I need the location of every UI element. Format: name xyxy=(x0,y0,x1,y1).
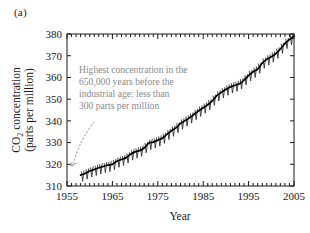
seasonal-spike xyxy=(227,84,230,95)
y-tick-label: 380 xyxy=(46,28,63,40)
seasonal-spike xyxy=(131,149,134,160)
seasonal-spike xyxy=(231,82,234,93)
figure-panel: (a) 310320330340350360370380 19551965197… xyxy=(0,0,310,233)
x-tick-label: 1965 xyxy=(101,190,124,202)
seasonal-spike xyxy=(236,81,239,92)
y-axis-tick-labels: 310320330340350360370380 xyxy=(46,28,63,192)
x-tick-label: 1985 xyxy=(192,190,215,202)
y-tick-label: 330 xyxy=(46,136,63,148)
y-axis-title-units: (parts per million) xyxy=(23,68,36,152)
seasonal-spike xyxy=(268,54,271,65)
seasonal-spike xyxy=(159,135,162,146)
annotation-line: industrial age: less than xyxy=(79,88,170,99)
seasonal-spike xyxy=(104,162,107,173)
seasonal-spike xyxy=(154,137,157,148)
y-axis-title: CO2 concentration (parts per million) xyxy=(10,67,36,153)
x-axis-title: Year xyxy=(169,210,190,222)
seasonal-spike xyxy=(86,168,89,179)
seasonal-spike xyxy=(122,155,125,166)
y-tick-label: 360 xyxy=(46,71,63,83)
annotation-line: 650,000 years before the xyxy=(79,76,174,87)
x-tick-label: 1975 xyxy=(147,190,170,202)
annotation-leader-arrow xyxy=(74,122,95,163)
y-axis-title-co: CO xyxy=(10,137,22,153)
seasonal-spike xyxy=(81,170,84,181)
x-tick-label: 1955 xyxy=(56,190,79,202)
x-tick-label: 1995 xyxy=(238,190,261,202)
annotation-line: Highest concentration in the xyxy=(79,64,187,75)
y-axis-title-rest: concentration xyxy=(10,67,22,133)
co2-concentration-chart: 310320330340350360370380 195519651975198… xyxy=(0,0,310,233)
annotation-line: 300 parts per million xyxy=(79,100,159,111)
seasonal-spike xyxy=(254,67,257,78)
seasonal-spike xyxy=(91,166,94,177)
seasonal-spike xyxy=(109,161,112,172)
seasonal-spike xyxy=(136,147,139,158)
x-tick-label: 2005 xyxy=(283,190,306,202)
y-tick-label: 320 xyxy=(46,158,63,170)
seasonal-spike xyxy=(118,157,121,168)
seasonal-spike xyxy=(150,139,153,150)
y-tick-label: 370 xyxy=(46,50,63,62)
y-tick-label: 340 xyxy=(46,115,63,127)
seasonal-spike xyxy=(100,163,103,174)
x-axis-tick-labels: 195519651975198519952005 xyxy=(56,190,306,202)
y-tick-label: 350 xyxy=(46,93,63,105)
pre-industrial-annotation: Highest concentration in the650,000 year… xyxy=(79,64,187,111)
seasonal-spike xyxy=(95,165,98,176)
